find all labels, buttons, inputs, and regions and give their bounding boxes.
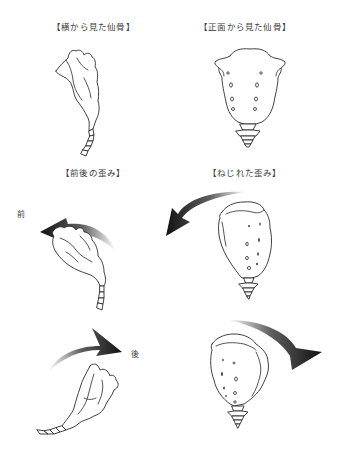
sacrum-side-view <box>56 50 99 156</box>
sacrum-front-view <box>215 49 285 147</box>
sacrum-twisted-right <box>211 334 269 428</box>
diagram-canvas <box>0 0 338 460</box>
sacrum-forward-tilt <box>53 226 106 310</box>
sacrum-backward-tilt <box>37 364 118 434</box>
sacrum-twisted-left <box>219 202 272 299</box>
arrow-backward <box>48 328 122 372</box>
